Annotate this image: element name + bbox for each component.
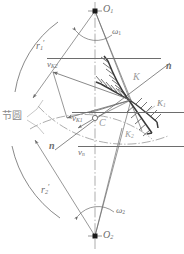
label-o1: O1 (103, 4, 113, 15)
pitch-circle-arc-2 (12, 146, 60, 218)
label-vk2: vK2 (47, 60, 184, 70)
label-r1-prime: r1′ (36, 40, 45, 51)
center-marker-o1 (88, 9, 102, 14)
radius-line-r1-prime (33, 11, 95, 98)
center-marker-o2 (88, 234, 102, 239)
omega2-arc (78, 207, 114, 216)
label-pitch-circle: 节圆 (2, 111, 22, 121)
pitch-circle-arc-1 (15, 22, 58, 92)
label-r2-prime: r2′ (41, 184, 50, 195)
diagram-vector-graphics (0, 0, 184, 254)
label-k1: K1 (157, 99, 166, 109)
figure-canvas: O1 ω1 r1′ vK2 vK1 vn C K K1 K2 n n 节圆 r2… (0, 0, 184, 254)
vector-difference-closure (53, 72, 67, 118)
label-n-lower: n (49, 141, 55, 151)
label-k2: K2 (125, 130, 134, 140)
leader-pitch-circle-2 (27, 120, 44, 134)
label-contact-point-k: K (133, 72, 140, 82)
label-omega1: ω1 (112, 27, 121, 37)
line-o2-k2 (95, 128, 122, 236)
label-omega2: ω2 (116, 206, 125, 216)
label-vk1: vK1 (72, 114, 184, 124)
label-vn: vn (78, 148, 184, 158)
tooth-tip-1-end (147, 133, 152, 134)
leader-k1 (146, 106, 155, 112)
line-of-action-n-n (55, 63, 170, 150)
label-pitch-point-c: C (99, 118, 106, 128)
label-o2: O2 (103, 230, 113, 241)
tooth-tip-2 (96, 82, 101, 84)
label-n-upper: n (166, 61, 172, 71)
